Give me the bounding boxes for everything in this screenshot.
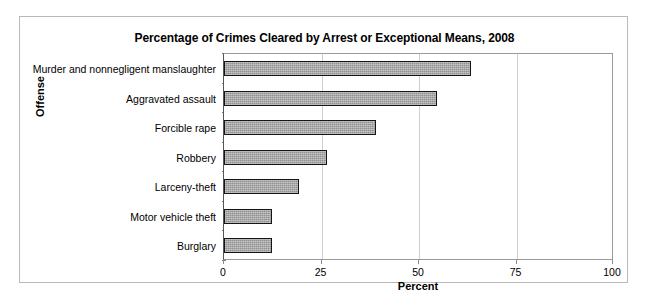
x-tick-mark-50	[418, 260, 419, 264]
y-axis-label-6: Burglary	[0, 240, 216, 252]
x-tick-mark-25	[321, 260, 322, 264]
bar-row	[224, 172, 612, 202]
bar-murder-and-nonnegligent-manslaughter[interactable]	[224, 61, 471, 76]
plot-area	[223, 53, 613, 260]
x-tick-label-25: 25	[315, 266, 327, 278]
chart-title: Percentage of Crimes Cleared by Arrest o…	[20, 31, 629, 45]
x-tick-mark-75	[516, 260, 517, 264]
bar-row	[224, 84, 612, 114]
x-tick-mark-100	[612, 260, 613, 264]
y-axis-label-0: Murder and nonnegligent manslaughter	[0, 63, 216, 75]
bar-series	[224, 54, 612, 259]
y-axis-label-2: Forcible rape	[0, 122, 216, 134]
x-axis-title: Percent	[223, 280, 613, 292]
x-tick-label-75: 75	[510, 266, 522, 278]
bar-forcible-rape[interactable]	[224, 120, 376, 135]
y-axis-label-4: Larceny-theft	[0, 181, 216, 193]
bar-motor-vehicle-theft[interactable]	[224, 209, 272, 224]
y-axis-label-5: Motor vehicle theft	[0, 211, 216, 223]
y-axis-label-3: Robbery	[0, 152, 216, 164]
bar-larceny-theft[interactable]	[224, 179, 299, 194]
bar-row	[224, 202, 612, 232]
bar-aggravated-assault[interactable]	[224, 91, 437, 106]
x-tick-label-0: 0	[220, 266, 226, 278]
y-axis-label-1: Aggravated assault	[0, 93, 216, 105]
x-tick-mark-0	[223, 260, 224, 264]
y-axis-title: Offense	[34, 76, 46, 117]
bar-robbery[interactable]	[224, 150, 327, 165]
bar-row	[224, 231, 612, 261]
x-tick-label-50: 50	[412, 266, 424, 278]
x-tick-label-100: 100	[603, 266, 621, 278]
bar-row	[224, 113, 612, 143]
chart-frame: Percentage of Crimes Cleared by Arrest o…	[19, 16, 628, 283]
bar-row	[224, 143, 612, 173]
bar-burglary[interactable]	[224, 238, 272, 253]
bar-row	[224, 54, 612, 84]
